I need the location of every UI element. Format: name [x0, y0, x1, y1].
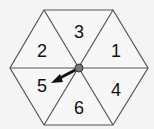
section-label-6: 6 — [74, 98, 84, 118]
section-label-5: 5 — [37, 76, 47, 96]
spinner-diagram: 1 2 3 4 5 6 — [0, 0, 154, 129]
section-label-4: 4 — [111, 80, 121, 100]
section-label-1: 1 — [111, 41, 121, 61]
hexagon-spinner: 1 2 3 4 5 6 — [0, 0, 154, 129]
section-label-2: 2 — [37, 41, 47, 61]
pivot-icon — [75, 64, 83, 72]
section-label-3: 3 — [74, 22, 84, 42]
